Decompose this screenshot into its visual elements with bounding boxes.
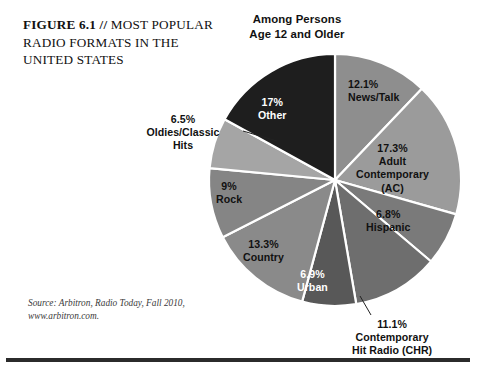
slice-label-chr: 11.1% Contemporary Hit Radio (CHR) [352, 318, 432, 358]
source-note: Source: Arbitron, Radio Today, Fall 2010… [28, 297, 243, 322]
slice-name-adult-contemporary-2: Contemporary [356, 168, 429, 181]
slice-name-news-talk: News/Talk [348, 91, 399, 104]
slice-name-chr-2: Hit Radio (CHR) [352, 344, 432, 357]
source-note-line1: Source: Arbitron, Radio Today, Fall 2010… [28, 297, 243, 310]
slice-label-oldies-classic-hits: 6.5% Oldies/Classic Hits [122, 113, 244, 153]
slice-label-other: 17% Other [258, 96, 287, 122]
figure-container: FIGURE 6.1 // MOST POPULAR RADIO FORMATS… [0, 0, 485, 375]
slice-name-other: Other [258, 109, 287, 122]
slice-value-chr: 11.1% [352, 318, 432, 331]
slice-name-rock: Rock [216, 193, 242, 206]
slice-name-hispanic: Hispanic [366, 221, 411, 234]
slice-name-country: Country [243, 251, 284, 264]
source-note-line2: www.arbitron.com. [28, 310, 243, 323]
bottom-divider [6, 358, 470, 362]
slice-label-news-talk: 12.1% News/Talk [348, 78, 399, 104]
slice-name-adult-contemporary-3: (AC) [356, 182, 429, 195]
slice-value-country: 13.3% [243, 238, 284, 251]
slice-value-news-talk: 12.1% [348, 78, 399, 91]
slice-value-other: 17% [258, 96, 287, 109]
slice-label-hispanic: 6.8% Hispanic [366, 208, 411, 234]
slice-value-adult-contemporary: 17.3% [356, 142, 429, 155]
slice-name-chr-1: Contemporary [352, 331, 432, 344]
slice-label-rock: 9% Rock [216, 180, 242, 206]
slice-name-oldies-classic-hits-1: Oldies/Classic [122, 126, 244, 139]
slice-name-oldies-classic-hits-2: Hits [122, 139, 244, 152]
slice-label-adult-contemporary: 17.3% Adult Contemporary (AC) [356, 142, 429, 195]
slice-value-oldies-classic-hits: 6.5% [122, 113, 244, 126]
slice-label-urban: 6.9% Urban [297, 268, 328, 294]
slice-name-urban: Urban [297, 281, 328, 294]
slice-label-country: 13.3% Country [243, 238, 284, 264]
slice-value-hispanic: 6.8% [366, 208, 411, 221]
slice-name-adult-contemporary-1: Adult [356, 155, 429, 168]
slice-value-rock: 9% [216, 180, 242, 193]
slice-value-urban: 6.9% [297, 268, 328, 281]
